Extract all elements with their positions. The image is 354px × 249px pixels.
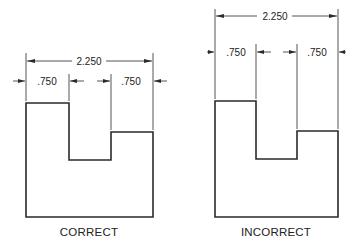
dimension-label: .750 — [121, 76, 141, 87]
left-dimension: .750 — [207, 47, 271, 58]
dimension-label: .750 — [226, 47, 246, 58]
overall-dimension: 2.250 — [216, 11, 337, 22]
right-dimension: .750 — [283, 47, 346, 58]
right-dimension: .750 — [97, 76, 167, 87]
figure-correct: 2.250 .750 .750 CORRECT — [13, 53, 167, 238]
overall-dimension: 2.250 — [27, 56, 152, 67]
caption-correct: CORRECT — [60, 226, 118, 238]
caption-incorrect: INCORRECT — [241, 226, 311, 238]
part-outline — [215, 101, 338, 217]
dimension-label: .750 — [37, 76, 57, 87]
dimension-label: 2.250 — [76, 56, 101, 67]
part-outline — [26, 103, 153, 217]
left-dimension: .750 — [13, 76, 84, 87]
figure-incorrect: 2.250 .750 .750 INCORRECT — [207, 9, 346, 238]
dimensioning-diagram: 2.250 .750 .750 CORRECT — [0, 0, 354, 249]
dimension-label: 2.250 — [262, 11, 287, 22]
dimension-label: .750 — [307, 47, 327, 58]
